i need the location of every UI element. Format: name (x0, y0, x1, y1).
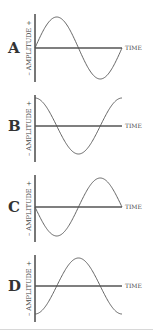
time-label: TIME (125, 44, 142, 51)
waveform-diagram: ATIME– AMPLITUDE +BTIME– AMPLITUDE +CTIM… (0, 0, 153, 335)
amplitude-label: – AMPLITUDE + (25, 101, 33, 156)
time-label: TIME (125, 122, 142, 129)
panel-b: BTIME– AMPLITUDE + (8, 95, 142, 162)
amplitude-label: – AMPLITUDE + (25, 20, 33, 75)
amplitude-label: – AMPLITUDE + (25, 181, 33, 236)
panel-d: DTIME– AMPLITUDE + (8, 255, 142, 322)
panel-a: ATIME– AMPLITUDE + (7, 14, 142, 82)
panel-letter: B (8, 117, 21, 135)
panel-c: CTIME– AMPLITUDE + (8, 175, 142, 242)
time-label: TIME (125, 203, 142, 210)
panel-letter: A (7, 39, 20, 57)
time-label: TIME (125, 282, 142, 289)
panel-letter: D (8, 277, 21, 295)
amplitude-label: – AMPLITUDE + (25, 261, 33, 316)
panel-letter: C (8, 198, 20, 216)
